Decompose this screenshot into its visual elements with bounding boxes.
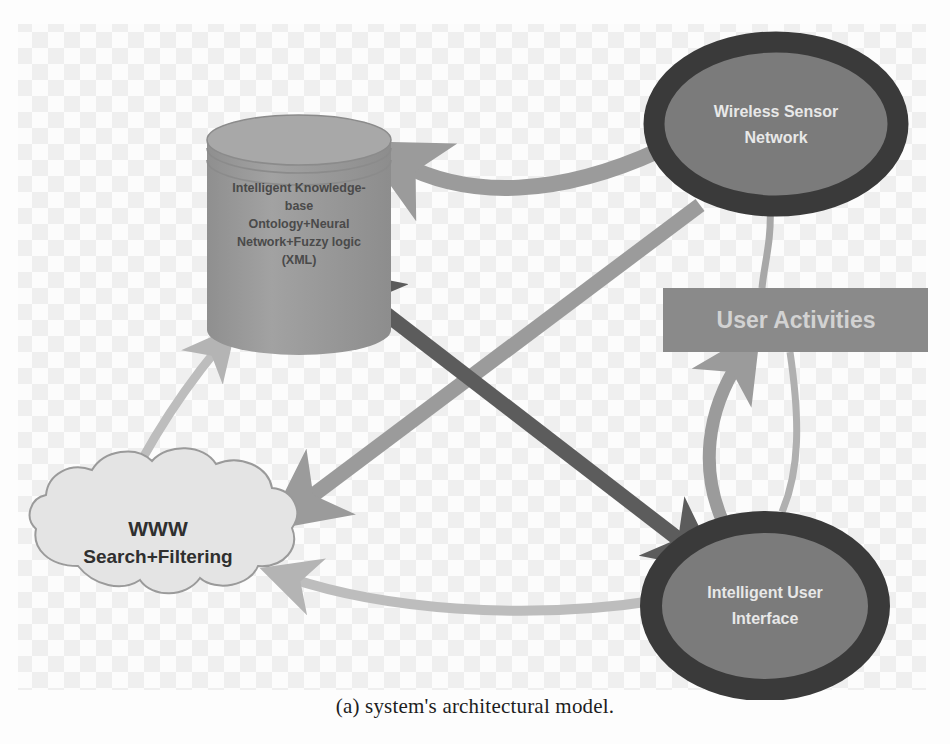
iui-label-line-1: Intelligent User xyxy=(707,584,823,601)
knowledge-base-line-5: (XML) xyxy=(282,253,317,267)
wsn-label-line-1: Wireless Sensor xyxy=(714,103,838,120)
knowledge-base-line-1: Intelligent Knowledge- xyxy=(232,181,365,195)
wsn-ellipse xyxy=(654,42,898,206)
user-activities-label: User Activities xyxy=(717,307,876,333)
wsn-label-line-2: Network xyxy=(744,129,807,146)
knowledge-base-line-3: Ontology+Neural xyxy=(248,217,349,231)
figure-caption: (a) system's architectural model. xyxy=(0,694,950,719)
figure-page: Intelligent Knowledge- base Ontology+Neu… xyxy=(0,0,950,744)
node-knowledge-base[interactable]: Intelligent Knowledge- base Ontology+Neu… xyxy=(207,115,391,355)
knowledge-base-line-2: base xyxy=(285,199,314,213)
knowledge-base-line-4: Network+Fuzzy logic xyxy=(237,235,361,249)
iui-label-line-2: Interface xyxy=(732,610,799,627)
node-user-activities[interactable]: User Activities xyxy=(663,288,928,352)
cylinder-top xyxy=(207,115,391,165)
node-intelligent-user-interface[interactable]: Intelligent User Interface xyxy=(651,522,879,690)
architecture-diagram: Intelligent Knowledge- base Ontology+Neu… xyxy=(0,0,950,700)
diagram-canvas: Intelligent Knowledge- base Ontology+Neu… xyxy=(0,0,950,700)
cloud-label-www: WWW xyxy=(128,517,188,540)
cloud-label-search-filtering: Search+Filtering xyxy=(83,546,232,567)
node-wireless-sensor-network[interactable]: Wireless Sensor Network xyxy=(654,42,898,206)
iui-ellipse xyxy=(651,522,879,690)
